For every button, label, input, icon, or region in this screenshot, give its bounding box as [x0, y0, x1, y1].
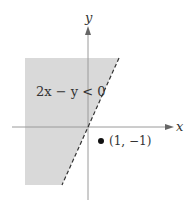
test-point	[98, 138, 104, 144]
shaded-region	[25, 58, 119, 185]
x-axis-arrow-icon	[165, 124, 174, 130]
y-axis-label: y	[85, 10, 92, 25]
y-axis-arrow-icon	[85, 26, 91, 35]
inequality-graph: y x 2x − y < 0 (1, −1)	[0, 0, 196, 206]
inequality-label: 2x − y < 0	[36, 84, 106, 99]
x-axis-label: x	[176, 119, 183, 134]
point-label: (1, −1)	[109, 134, 151, 148]
graph-canvas	[0, 0, 196, 206]
